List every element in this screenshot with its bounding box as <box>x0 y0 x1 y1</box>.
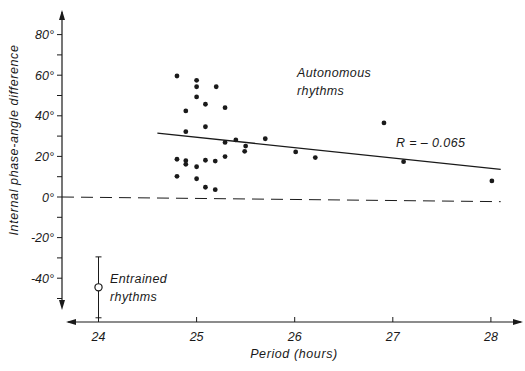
y-axis-arrow-down-icon <box>59 300 65 310</box>
y-tick-label: 20° <box>34 150 54 164</box>
data-point <box>183 129 188 134</box>
data-point <box>213 159 218 164</box>
open-circle-point <box>95 284 102 291</box>
x-axis-arrow-left-icon <box>66 319 76 325</box>
data-point <box>175 74 180 79</box>
y-tick-label: 80° <box>35 28 54 42</box>
data-point <box>243 144 248 149</box>
data-point <box>203 185 208 190</box>
data-point <box>233 138 238 143</box>
data-point <box>223 105 228 110</box>
data-point <box>223 154 228 159</box>
annotation-autonomous-line2: rhythms <box>297 84 344 98</box>
data-point <box>489 179 494 184</box>
data-point <box>214 84 219 89</box>
data-point <box>203 124 208 129</box>
entrained-point-with-error-bar <box>95 257 102 318</box>
data-point <box>293 150 298 155</box>
data-point <box>194 95 199 100</box>
data-point <box>183 162 188 167</box>
dashed-line <box>62 197 501 202</box>
data-point <box>313 155 318 160</box>
y-tick-label: -20° <box>31 231 54 245</box>
data-point <box>194 84 199 89</box>
scatter-chart: 80°60°40°20°0°-20°-40°2425262728 Period … <box>0 0 525 371</box>
x-tick-label: 28 <box>483 330 498 344</box>
y-tick-label: 0° <box>42 191 54 205</box>
y-axis-arrow-up-icon <box>59 10 65 20</box>
x-tick-label: 24 <box>91 330 106 344</box>
data-point <box>194 78 199 83</box>
data-point <box>213 187 218 192</box>
data-point <box>183 109 188 114</box>
data-point <box>203 102 208 107</box>
data-point <box>263 136 268 141</box>
data-point <box>401 159 406 164</box>
data-point <box>194 176 199 181</box>
x-axis-arrow-right-icon <box>513 319 523 325</box>
x-tick-label: 26 <box>287 330 302 344</box>
y-tick-label: -40° <box>31 272 54 286</box>
data-point <box>194 164 199 169</box>
x-tick-label: 27 <box>385 330 401 344</box>
data-point <box>203 158 208 163</box>
annotation-entrained-line2: rhythms <box>110 290 157 304</box>
data-point <box>242 149 247 154</box>
data-point <box>175 157 180 162</box>
y-tick-label: 60° <box>35 69 54 83</box>
x-tick-label: 25 <box>189 330 204 344</box>
x-axis-title: Period (hours) <box>250 347 338 361</box>
y-axis-title: Internal phase-angle difference <box>7 45 21 236</box>
annotation-autonomous-line1: Autonomous <box>296 66 371 80</box>
annotation-correlation-r: R = – 0.065 <box>396 136 465 150</box>
data-point <box>223 140 228 145</box>
axes: 80°60°40°20°0°-20°-40°2425262728 <box>31 10 523 344</box>
zero-reference-dashed-line <box>62 197 501 202</box>
y-tick-label: 40° <box>35 109 54 123</box>
data-point <box>175 174 180 179</box>
annotation-entrained-line1: Entrained <box>110 272 168 286</box>
data-point <box>382 121 387 126</box>
